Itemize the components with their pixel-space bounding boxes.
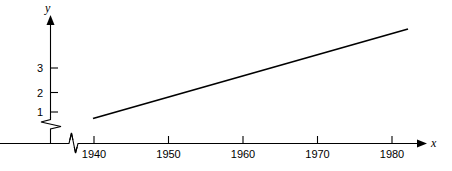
x-axis-title: x [431, 137, 436, 149]
data-line-trend [93, 29, 408, 119]
x-axis-arrowhead [417, 140, 427, 148]
y-tick-label-2: 2 [25, 87, 43, 98]
x-tick-label-1970: 1970 [305, 149, 329, 160]
chart-container: 1940 1950 1960 1970 1980 1 2 3 y x [0, 0, 452, 171]
x-tick-label-1980: 1980 [380, 149, 404, 160]
x-tick-label-1960: 1960 [231, 149, 255, 160]
y-axis-arrowhead [47, 15, 55, 25]
y-axis-title: y [45, 2, 50, 14]
chart-plot-area [0, 0, 452, 171]
y-tick-label-3: 3 [25, 63, 43, 74]
y-axis-break-icon [41, 117, 61, 132]
y-tick-label-1: 1 [25, 107, 43, 118]
x-tick-label-1950: 1950 [156, 149, 180, 160]
x-tick-label-1940: 1940 [82, 149, 106, 160]
